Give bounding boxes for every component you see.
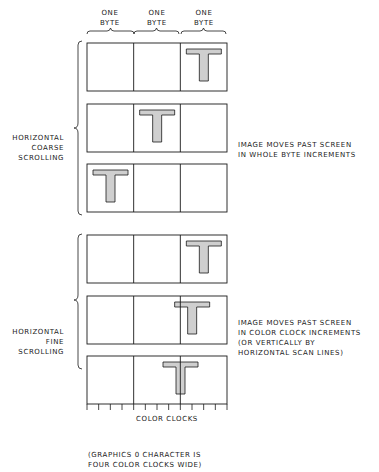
fine-screen-row [87,356,227,404]
axis-note: (GRAPHICS 0 CHARACTER ISFOUR COLOR CLOCK… [88,430,202,472]
coarse-screen-row [87,43,227,91]
byte-column-label: ONEBYTE [134,8,180,28]
color-clock-ticks [87,404,227,410]
letter-t-glyph [140,110,175,142]
axis-label: COLOR CLOCKS [117,414,217,424]
coarse-screen-row [87,104,227,152]
fine-screen-row [87,296,227,344]
byte-column-label: ONEBYTE [87,8,133,28]
fine-screen-row [87,235,227,283]
coarse-description: IMAGE MOVES PAST SCREENIN WHOLE BYTE INC… [238,120,356,170]
letter-t-glyph [186,49,221,81]
byte-brace-1 [87,28,134,34]
byte-column-label: ONEBYTE [181,8,227,28]
letter-t-glyph [186,241,221,273]
fine-brace [74,234,82,369]
coarse-label: HORIZONTALCOARSESCROLLING [0,113,64,173]
letter-t-glyph [93,170,128,202]
byte-brace-2 [134,28,179,34]
coarse-screen-row [87,164,227,212]
byte-brace-3 [181,28,226,34]
coarse-brace [74,41,82,215]
fine-label: HORIZONTALFINESCROLLING [0,307,64,367]
fine-description: IMAGE MOVES PAST SCREENIN COLOR CLOCK IN… [238,298,361,368]
